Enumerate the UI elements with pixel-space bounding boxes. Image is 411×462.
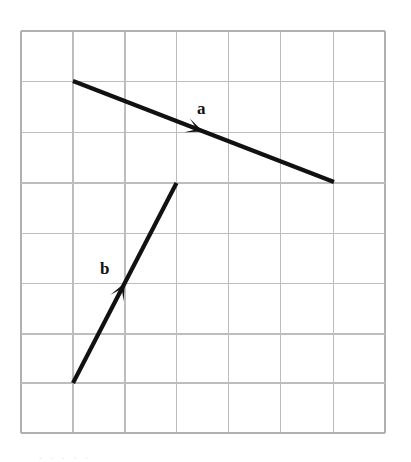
vector-diagram-figure: a b · · · · ·: [0, 0, 411, 462]
vector-shapes: [73, 81, 334, 383]
vector-label-b: b: [100, 260, 109, 277]
vector-diagram-canvas: [0, 0, 411, 462]
vector-label-a: a: [197, 100, 206, 117]
vector-shaft-a: [73, 81, 334, 182]
footer-ghost-text: · · · · ·: [0, 450, 411, 462]
grid-lines: [21, 31, 385, 433]
